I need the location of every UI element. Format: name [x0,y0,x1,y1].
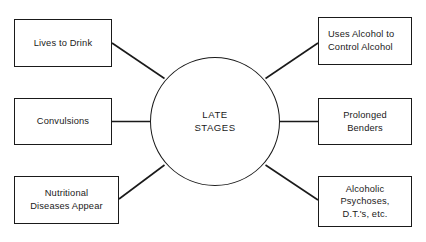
node-label: Alcoholic Psychoses, D.T.'s, etc. [340,183,389,221]
node-prolonged-benders[interactable]: Prolonged Benders [318,98,412,145]
node-label: Prolonged Benders [343,109,387,134]
connector-uses-alcohol-to-control-alcohol [266,43,319,79]
node-lives-to-drink[interactable]: Lives to Drink [14,19,112,67]
center-node-label: LATE STAGES [194,109,235,134]
node-alcoholic-psychoses[interactable]: Alcoholic Psychoses, D.T.'s, etc. [318,176,412,227]
node-label: Uses Alcohol to Control Alcohol [328,28,394,53]
node-convulsions[interactable]: Convulsions [14,98,112,145]
center-node-late-stages[interactable]: LATE STAGES [150,57,280,186]
node-label: Nutritional Diseases Appear [30,187,103,212]
connector-alcoholic-psychoses [266,165,319,200]
diagram-canvas: Lives to Drink Convulsions Nutritional D… [0,0,426,242]
node-uses-alcohol-to-control-alcohol[interactable]: Uses Alcohol to Control Alcohol [318,17,412,65]
node-label: Convulsions [37,115,89,128]
connector-lives-to-drink [112,43,165,79]
node-nutritional-diseases-appear[interactable]: Nutritional Diseases Appear [14,176,119,224]
connector-nutritional-diseases-appear [119,165,165,199]
node-label: Lives to Drink [34,37,92,50]
